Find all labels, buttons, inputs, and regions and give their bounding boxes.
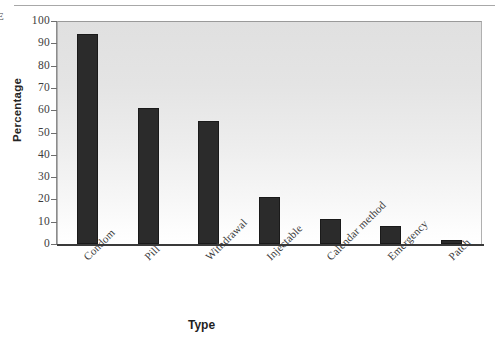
y-axis-tick [51, 155, 57, 156]
chart-screenshot: E 0102030405060708090100 Percentage Cond… [0, 0, 499, 338]
top-divider [14, 5, 495, 6]
y-axis-tick-label: 20 [4, 192, 50, 204]
y-axis-tick-label: 10 [4, 215, 50, 227]
y-axis-tick [51, 222, 57, 223]
y-axis-tick-labels: 0102030405060708090100 [0, 0, 50, 338]
y-axis-tick [51, 88, 57, 89]
y-axis-title: Percentage [11, 70, 23, 150]
y-axis-tick-label: 0 [4, 237, 50, 249]
y-axis-tick-label: 30 [4, 170, 50, 182]
y-axis-tick-label: 90 [4, 36, 50, 48]
y-axis-tick [51, 199, 57, 200]
y-axis-tick [51, 110, 57, 111]
bar-withdrawal[interactable] [198, 121, 219, 244]
bar-injectable[interactable] [259, 197, 280, 244]
y-axis-tick [51, 66, 57, 67]
bar-condom[interactable] [77, 34, 98, 244]
y-axis-tick [51, 244, 57, 245]
x-axis-title: Type [188, 318, 215, 332]
y-axis-tick [51, 43, 57, 44]
y-axis-tick-label: 100 [4, 14, 50, 26]
y-axis-tick-label: 80 [4, 59, 50, 71]
y-axis-tick [51, 177, 57, 178]
y-axis-tick [51, 133, 57, 134]
y-axis-tick [51, 21, 57, 22]
x-axis-title-wrap: Type [0, 318, 499, 332]
bar-pill[interactable] [138, 108, 159, 244]
